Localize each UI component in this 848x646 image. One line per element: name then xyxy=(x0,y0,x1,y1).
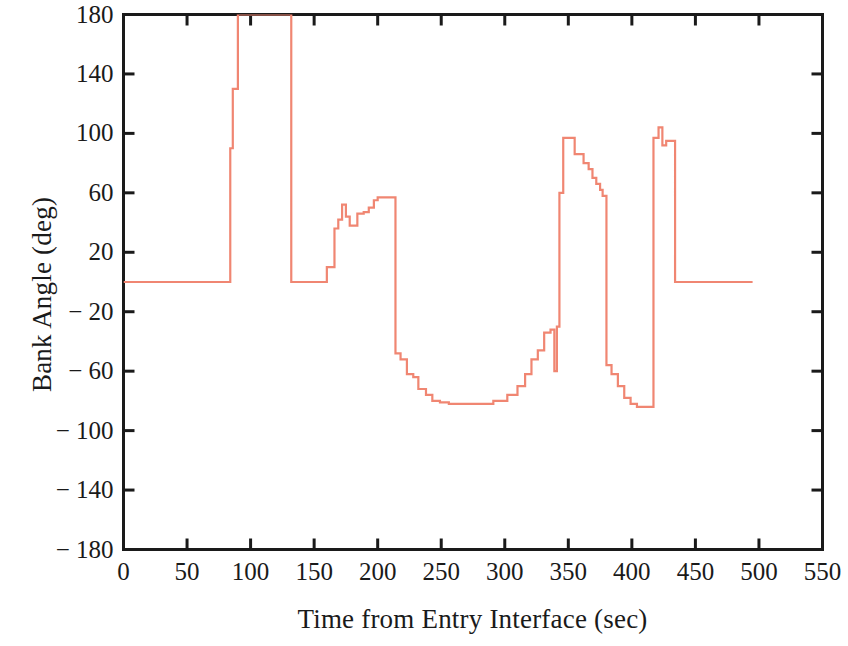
series-line-0 xyxy=(124,15,753,407)
bank-angle-chart: Bank Angle (deg) Time from Entry Interfa… xyxy=(0,0,848,646)
data-series xyxy=(124,15,753,407)
plot-canvas xyxy=(0,0,848,646)
